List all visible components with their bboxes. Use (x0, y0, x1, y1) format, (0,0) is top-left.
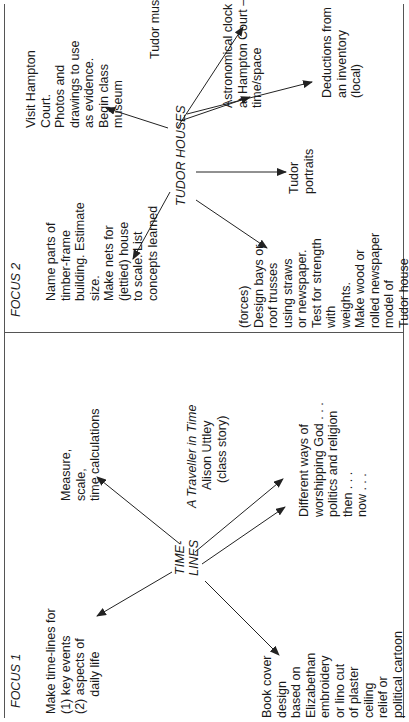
node-book-cover: Book cover design based on Elizabethan e… (260, 631, 405, 718)
node-traveller-sub: Alison Uttley (class story) (200, 416, 229, 490)
mind-map-page: FOCUS 1 FOCUS 2 TIME- LINES TUDOR HOUSES… (0, 0, 409, 722)
node-traveller-title: A Traveller in Time (185, 405, 200, 508)
node-deductions: Deductions from an inventory (local) (320, 7, 364, 98)
node-make-timelines: Make time-lines for (1) key events (2) a… (44, 608, 102, 714)
hub-timelines: TIME- LINES (173, 540, 201, 576)
node-worship: Different ways of worshipping God . . . … (297, 402, 370, 517)
node-astronomical-clock: Astronomical clock at Hampton Court – ti… (221, 0, 265, 108)
node-visit: Visit Hampton Court. Photos and drawings… (24, 40, 126, 128)
arrow-to-measure (97, 477, 180, 544)
focus-2-label: FOCUS 2 (9, 263, 24, 317)
hub-tudor-houses: TUDOR HOUSES (174, 105, 188, 206)
node-measure: Measure, scale, time calculations (59, 409, 103, 501)
arrow-to-make-timelines (97, 572, 172, 616)
focus-1-label: FOCUS 1 (9, 654, 24, 708)
node-tudor-portraits: Tudor portraits (287, 149, 316, 194)
node-forces: (forces) Design bays or roof trusses usi… (237, 233, 409, 328)
node-tudor-music: Tudor music (148, 0, 163, 59)
node-name-parts: Name parts of timber-frame building. Est… (44, 202, 160, 301)
